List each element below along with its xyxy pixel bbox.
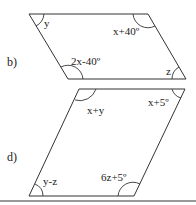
parallelogram-d: x+y x+5º y-z 6z+5º d) xyxy=(7,89,185,196)
angle-label-y-minus-z: y-z xyxy=(43,175,57,187)
angle-label-6z-plus-5: 6z+5º xyxy=(101,171,127,183)
angle-arc-bottom-right xyxy=(172,67,179,79)
angle-label-x-plus-y: x+y xyxy=(87,104,105,116)
part-label-b: b) xyxy=(7,55,17,69)
angle-label-2x-minus-40: 2x-40º xyxy=(71,55,101,67)
angle-arc-bottom-left xyxy=(35,184,43,196)
parallelogram-b: y x+40º 2x-40º z b) xyxy=(7,14,186,79)
part-label-d: d) xyxy=(7,150,17,164)
angle-arc-top-left xyxy=(36,14,44,26)
angle-label-z: z xyxy=(166,65,171,77)
angle-arc-bottom-right xyxy=(118,182,140,196)
diagram-canvas: y x+40º 2x-40º z b) x+y x+5º y-z 6z+5º d… xyxy=(0,0,196,205)
angle-label-y: y xyxy=(44,17,50,29)
angle-label-x-plus-40: x+40º xyxy=(113,25,140,37)
angle-label-x-plus-5: x+5º xyxy=(148,96,169,108)
angle-arc-top-right xyxy=(172,89,181,98)
